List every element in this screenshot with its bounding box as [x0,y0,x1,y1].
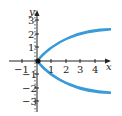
y-tick-label: 2 [28,29,34,40]
x-axis-label: x [106,61,112,72]
y-axis-label: y [28,6,35,17]
parabola-chart: −1 1 2 3 4 x 3 2 1 −1 −2 −3 y [0,0,122,116]
vertex-point [35,58,40,63]
x-tick-label: 1 [48,64,54,75]
y-tick-label: 1 [28,42,34,53]
x-tick-label: 3 [77,64,83,75]
y-tick-label: −1 [22,69,37,80]
y-tick-label: −3 [22,96,37,107]
y-tick-label: −2 [22,83,37,94]
x-tick-label: 4 [92,64,98,75]
x-tick-label: 2 [63,64,69,75]
